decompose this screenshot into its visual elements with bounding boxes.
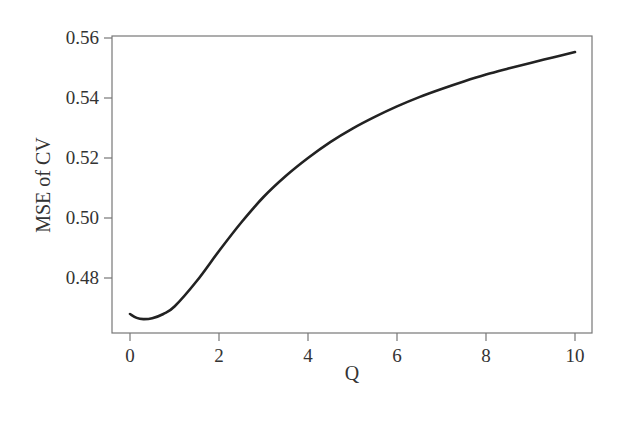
x-axis-label: Q — [345, 362, 360, 384]
y-axis-label: MSE of CV — [32, 137, 54, 233]
y-tick-label: 0.48 — [66, 267, 99, 288]
x-tick-label: 10 — [566, 345, 585, 366]
plot-frame — [112, 36, 592, 333]
y-tick-label: 0.50 — [66, 207, 99, 228]
y-axis: 0.480.500.520.540.56 — [66, 27, 112, 288]
x-tick-label: 6 — [392, 345, 402, 366]
y-tick-label: 0.56 — [66, 27, 99, 48]
x-tick-label: 4 — [303, 345, 313, 366]
x-tick-label: 2 — [214, 345, 224, 366]
y-tick-label: 0.52 — [66, 147, 99, 168]
x-tick-label: 0 — [125, 345, 135, 366]
y-tick-label: 0.54 — [66, 87, 100, 108]
x-tick-label: 8 — [481, 345, 491, 366]
line-chart: 0.480.500.520.540.56 0246810 Q MSE of CV — [0, 0, 619, 426]
mse-curve — [130, 52, 575, 319]
